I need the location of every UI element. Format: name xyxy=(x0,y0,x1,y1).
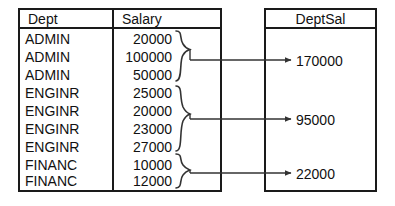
table-row: ENGINR xyxy=(25,84,79,102)
table-cell-salary: 100000 xyxy=(112,48,172,66)
result-value-financ: 22000 xyxy=(296,165,335,183)
table-cell-salary: 12000 xyxy=(112,172,172,190)
table-row: FINANC xyxy=(25,172,77,190)
table-row: ADMIN xyxy=(25,48,70,66)
table-cell-salary: 50000 xyxy=(112,66,172,84)
table-row: ENGINR xyxy=(25,138,79,156)
table-cell-salary: 25000 xyxy=(112,84,172,102)
table-cell-salary: 23000 xyxy=(112,120,172,138)
result-value-enginr: 95000 xyxy=(296,111,335,129)
result-value-admin: 170000 xyxy=(296,52,343,70)
table-cell-salary: 27000 xyxy=(112,138,172,156)
table-cell-salary: 20000 xyxy=(112,30,172,48)
table-cell-salary: 20000 xyxy=(112,102,172,120)
table-row: ADMIN xyxy=(25,66,70,84)
table-row: ENGINR xyxy=(25,120,79,138)
column-header-salary: Salary xyxy=(122,11,162,28)
table-row: ADMIN xyxy=(25,30,70,48)
table-row: ENGINR xyxy=(25,102,79,120)
column-header-dept: Dept xyxy=(28,11,58,28)
column-header-deptsal: DeptSal xyxy=(266,11,375,28)
diagram-canvas: Dept Salary ADMIN 20000 ADMIN 100000 ADM… xyxy=(0,0,395,206)
